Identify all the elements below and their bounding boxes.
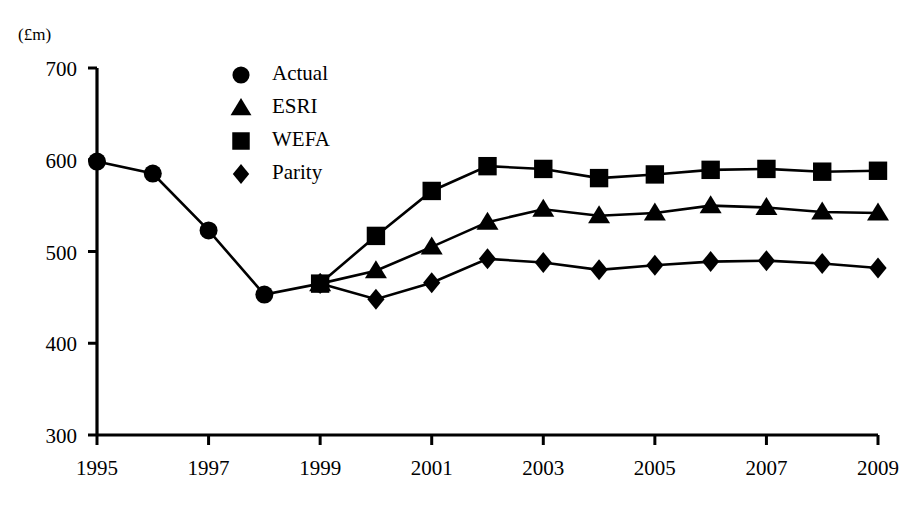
y-tick-label: 400 bbox=[46, 332, 78, 356]
marker-square bbox=[478, 157, 496, 175]
chart-legend: ActualESRIWEFAParity bbox=[231, 61, 331, 184]
y-axis-unit-label: (£m) bbox=[18, 25, 51, 44]
y-tick-label: 700 bbox=[46, 57, 78, 81]
marker-diamond bbox=[702, 251, 719, 272]
legend-item-actual: Actual bbox=[232, 61, 328, 85]
marker-square bbox=[757, 160, 775, 178]
marker-circle bbox=[200, 221, 218, 239]
chart-container: 300400500600700 199519971999200120032005… bbox=[0, 0, 923, 505]
x-tick-label: 1999 bbox=[299, 456, 341, 480]
marker-square bbox=[367, 227, 385, 245]
legend-item-wefa: WEFA bbox=[232, 127, 331, 151]
legend-label: Parity bbox=[272, 160, 323, 184]
marker-diamond bbox=[479, 248, 496, 269]
x-tick-label: 1995 bbox=[76, 456, 118, 480]
marker-diamond bbox=[535, 252, 552, 273]
marker-triangle bbox=[532, 199, 554, 217]
marker-square bbox=[646, 165, 664, 183]
marker-square bbox=[534, 160, 552, 178]
marker-triangle bbox=[231, 98, 252, 115]
marker-square bbox=[869, 162, 887, 180]
marker-diamond bbox=[646, 255, 663, 276]
marker-circle bbox=[88, 153, 106, 171]
marker-triangle bbox=[365, 260, 387, 278]
legend-item-esri: ESRI bbox=[231, 94, 318, 118]
series-parity bbox=[312, 248, 887, 309]
y-tick-label: 500 bbox=[46, 241, 78, 265]
legend-label: WEFA bbox=[272, 127, 331, 151]
legend-label: Actual bbox=[272, 61, 328, 85]
marker-circle bbox=[232, 66, 249, 83]
x-tick-label: 2003 bbox=[522, 456, 564, 480]
marker-diamond bbox=[233, 164, 249, 184]
marker-diamond bbox=[367, 289, 384, 310]
marker-square bbox=[423, 182, 441, 200]
marker-circle bbox=[255, 286, 273, 304]
y-tick-label: 300 bbox=[46, 424, 78, 448]
marker-circle bbox=[144, 165, 162, 183]
x-tick-label: 2001 bbox=[411, 456, 453, 480]
x-tick-label: 2007 bbox=[745, 456, 787, 480]
y-axis-tick-labels: 300400500600700 bbox=[46, 57, 78, 448]
marker-triangle bbox=[867, 202, 889, 220]
legend-item-parity: Parity bbox=[233, 160, 323, 184]
data-series bbox=[88, 153, 889, 310]
y-tick-label: 600 bbox=[46, 149, 78, 173]
marker-diamond bbox=[814, 253, 831, 274]
x-tick-label: 2005 bbox=[634, 456, 676, 480]
marker-square bbox=[590, 169, 608, 187]
legend-label: ESRI bbox=[272, 94, 318, 118]
line-chart: 300400500600700 199519971999200120032005… bbox=[0, 0, 923, 505]
marker-square bbox=[813, 162, 831, 180]
marker-diamond bbox=[869, 258, 886, 279]
marker-diamond bbox=[590, 259, 607, 280]
marker-square bbox=[232, 132, 249, 149]
marker-triangle bbox=[421, 236, 443, 254]
x-tick-label: 1997 bbox=[188, 456, 230, 480]
x-tick-label: 2009 bbox=[857, 456, 899, 480]
marker-square bbox=[701, 161, 719, 179]
marker-diamond bbox=[758, 250, 775, 271]
marker-triangle bbox=[700, 195, 722, 213]
x-axis-tick-labels: 19951997199920012003200520072009 bbox=[76, 456, 899, 480]
marker-diamond bbox=[423, 272, 440, 293]
